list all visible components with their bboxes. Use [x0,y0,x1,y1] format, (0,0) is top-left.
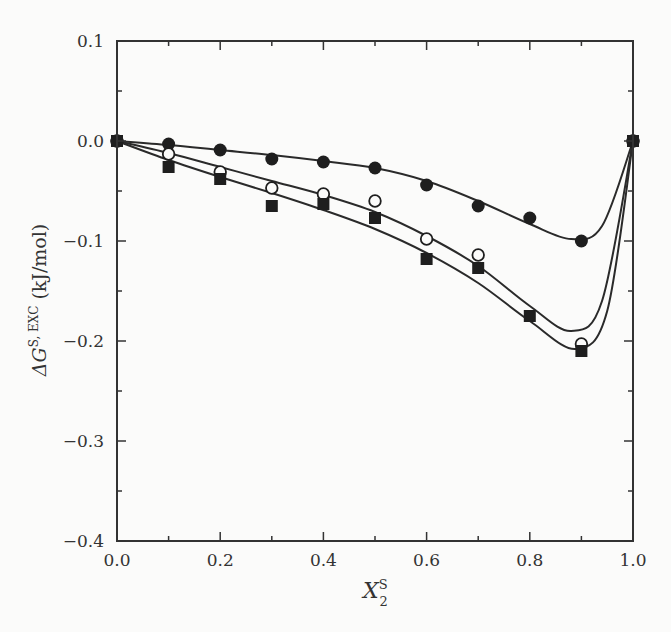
open-circle-marker [472,249,484,261]
svg-text:ΔGS, EXC (kJ/mol): ΔGS, EXC (kJ/mol) [27,224,50,378]
filled-circle-marker [420,179,433,192]
x-tick-label: 1.0 [619,550,646,570]
open-circle-marker [266,182,278,194]
open-circle-marker [369,195,381,207]
x-tick-label: 0.2 [207,550,234,570]
filled-square-marker [214,173,226,185]
open-circle-marker [421,233,433,245]
y-tick-label: 0.1 [77,31,104,51]
filled-square-marker [317,198,329,210]
filled-square-marker [369,212,381,224]
filled-circle-marker [214,144,227,157]
filled-square-marker [524,310,536,322]
filled-circle-marker [575,235,588,248]
y-tick-label: −0.2 [63,331,104,351]
x-tick-label: 0.8 [516,550,543,570]
x-axis-label: XS2 [361,577,388,609]
filled-circle-marker [523,212,536,225]
x-tick-label: 0.4 [310,550,337,570]
filled-square-marker [266,200,278,212]
x-tick-labels: 0.00.20.40.60.81.0 [103,550,646,570]
fit-curve [117,141,633,239]
filled-square-marker [163,161,175,173]
x-tick-label: 0.0 [103,550,130,570]
y-tick-label: −0.4 [63,531,104,551]
plot-frame [117,41,633,541]
filled-square-marker [421,253,433,265]
open-circle-marker [163,148,175,160]
excess-gibbs-energy-chart: 0.00.20.40.60.81.0 0.10.0−0.1−0.2−0.3−0.… [0,0,671,632]
x-tick-label: 0.6 [413,550,440,570]
filled-circle-marker [472,200,485,213]
filled-circle-marker [317,156,330,169]
y-tick-label: 0.0 [77,131,104,151]
filled-circle-marker [265,153,278,166]
filled-square-marker [575,345,587,357]
y-axis-label: ΔGS, EXC (kJ/mol) [27,224,50,378]
y-tick-label: −0.3 [63,431,104,451]
filled-square-marker [472,262,484,274]
axis-ticks [117,41,633,541]
filled-circle-marker [369,162,382,175]
y-tick-labels: 0.10.0−0.1−0.2−0.3−0.4 [63,31,104,551]
y-tick-label: −0.1 [63,231,104,251]
